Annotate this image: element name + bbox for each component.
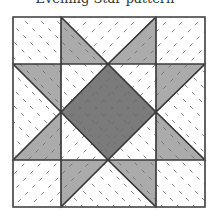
corner-top-left-patch [13,17,61,64]
quilt-block-diagram [0,0,210,216]
corner-bottom-right-patch [156,160,205,207]
